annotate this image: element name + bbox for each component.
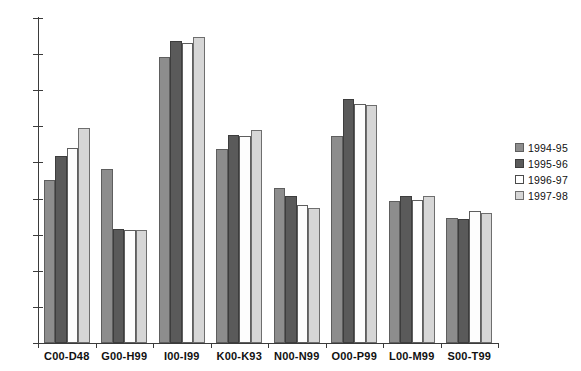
- x-tick-mark: [441, 343, 442, 348]
- bar: [412, 200, 424, 343]
- legend-swatch: [515, 191, 524, 200]
- bar: [136, 230, 148, 343]
- x-category-label: S00-T99: [424, 350, 514, 362]
- bar: [239, 136, 251, 343]
- legend-swatch: [515, 143, 524, 152]
- legend-item: 1994-95: [515, 140, 568, 155]
- bar: [469, 211, 481, 343]
- chart-legend: 1994-951995-961996-971997-98: [515, 140, 568, 204]
- bar: [170, 41, 182, 343]
- bar: [193, 37, 205, 343]
- bar: [297, 205, 309, 343]
- legend-label: 1997-98: [528, 190, 568, 202]
- legend-item: 1996-97: [515, 172, 568, 187]
- bar-cluster: [101, 18, 147, 343]
- bar: [481, 213, 493, 343]
- bar: [216, 149, 228, 343]
- x-tick-mark: [153, 343, 154, 348]
- x-tick-mark: [211, 343, 212, 348]
- x-tick-mark: [38, 343, 39, 348]
- bar: [228, 135, 240, 343]
- bar-cluster: [274, 18, 320, 343]
- x-tick-mark: [268, 343, 269, 348]
- x-tick-mark: [498, 343, 499, 348]
- bar: [159, 57, 171, 343]
- bar-cluster: [446, 18, 492, 343]
- bar: [182, 43, 194, 343]
- bar: [308, 208, 320, 343]
- bar: [78, 128, 90, 343]
- legend-label: 1995-96: [528, 158, 568, 170]
- plot-area: [38, 18, 498, 343]
- bar-cluster: [159, 18, 205, 343]
- bar: [446, 218, 458, 343]
- bar: [55, 156, 67, 343]
- bar: [113, 229, 125, 343]
- bar: [251, 130, 263, 343]
- bar: [423, 196, 435, 343]
- bar: [124, 230, 136, 343]
- x-tick-mark: [383, 343, 384, 348]
- bar-chart: 020040060080010001200140016001800 C00-D4…: [0, 0, 581, 371]
- bar: [354, 104, 366, 343]
- bar: [458, 219, 470, 343]
- legend-swatch: [515, 175, 524, 184]
- bar: [101, 169, 113, 343]
- bar: [285, 196, 297, 343]
- bar: [389, 201, 401, 343]
- bar: [44, 180, 56, 343]
- bar: [67, 148, 79, 343]
- legend-item: 1995-96: [515, 156, 568, 171]
- bar-cluster: [216, 18, 262, 343]
- x-tick-mark: [326, 343, 327, 348]
- legend-item: 1997-98: [515, 188, 568, 203]
- bar-cluster: [44, 18, 90, 343]
- legend-label: 1994-95: [528, 142, 568, 154]
- x-tick-mark: [96, 343, 97, 348]
- bar: [400, 196, 412, 343]
- legend-swatch: [515, 159, 524, 168]
- bar-cluster: [331, 18, 377, 343]
- bar: [343, 99, 355, 343]
- bar: [331, 136, 343, 343]
- bar: [274, 188, 286, 343]
- bar: [366, 105, 378, 343]
- legend-label: 1996-97: [528, 174, 568, 186]
- bar-cluster: [389, 18, 435, 343]
